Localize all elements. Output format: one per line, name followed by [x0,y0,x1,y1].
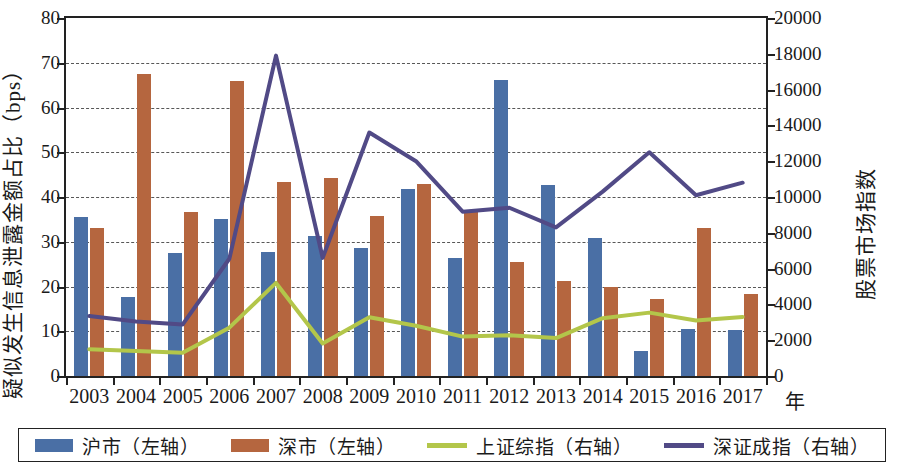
x-axis-tick-label: 2014 [583,385,623,408]
legend-label: 深证成指（右轴） [713,432,869,459]
x-axis-tick-label: 2016 [676,385,716,408]
right-axis-tick-label: 8000 [774,222,812,241]
left-axis-tick-label: 60 [41,97,60,116]
left-axis-tick-mark [57,331,66,333]
right-axis-tick-mark [766,340,775,342]
left-axis-title: 疑似发生信息泄露金额占比（bps） [0,69,26,399]
left-axis-tick-mark [57,376,66,378]
x-axis-tick-label: 2015 [629,385,669,408]
x-axis-tick-mark [766,376,768,385]
x-axis-tick-label: 2007 [256,385,296,408]
right-axis-tick-labels: 0200040006000800010000120001400016000180… [774,16,844,378]
right-axis-tick-mark [766,18,775,20]
left-axis-tick-mark [57,108,66,110]
x-axis-tick-mark [579,376,581,385]
x-axis-unit-label: 年 [785,386,805,415]
x-axis-tick-mark [206,376,208,385]
x-axis-tick-label: 2017 [723,385,763,408]
right-axis-tick-label: 16000 [774,79,822,98]
legend-item-2[interactable]: 深市（左轴） [231,432,395,459]
line-series-group [66,18,766,376]
x-axis-tick-mark [719,376,721,385]
right-axis-tick-mark [766,161,775,163]
legend-label: 上证综指（右轴） [476,432,632,459]
x-axis-tick-mark [626,376,628,385]
right-axis-tick-mark [766,90,775,92]
right-axis-tick-mark [766,304,775,306]
x-axis-tick-mark [159,376,161,385]
legend-bar-swatch-icon [35,439,73,452]
right-axis-tick-mark [766,125,775,127]
right-axis-tick-label: 0 [774,366,784,385]
x-axis-tick-label: 2013 [536,385,576,408]
right-axis-tick-mark [766,54,775,56]
x-axis-tick-mark [66,376,68,385]
x-axis-tick-label: 2012 [489,385,529,408]
right-axis-tick-label: 4000 [774,294,812,313]
legend-item-3[interactable]: 上证综指（右轴） [427,432,632,459]
right-axis-title: 股票市场指数 [849,134,879,334]
x-axis-tick-label: 2004 [116,385,156,408]
legend-item-4[interactable]: 深证成指（右轴） [664,432,869,459]
x-axis-tick-labels: 2003200420052006200720082009201020112012… [64,385,768,415]
left-axis-tick-mark [57,152,66,154]
right-axis-tick-label: 10000 [774,187,822,206]
left-axis-tick-label: 10 [41,321,60,340]
x-axis-tick-mark [439,376,441,385]
legend-line-swatch-icon [427,443,467,448]
chart-legend: 沪市（左轴）深市（左轴）上证综指（右轴）深证成指（右轴） [18,428,886,462]
x-axis-tick-label: 2003 [69,385,109,408]
right-axis-tick-label: 20000 [774,8,822,27]
right-axis-tick-label: 14000 [774,115,822,134]
chart-figure: 01020304050607080 0200040006000800010000… [0,0,904,468]
left-axis-tick-mark [57,18,66,20]
left-axis-tick-label: 30 [41,231,60,250]
legend-bar-swatch-icon [231,439,269,452]
legend-label: 沪市（左轴） [82,432,199,459]
x-axis-tick-mark [393,376,395,385]
x-axis-tick-label: 2010 [396,385,436,408]
right-axis-tick-mark [766,197,775,199]
x-axis-tick-mark [533,376,535,385]
left-axis-tick-label: 70 [41,52,60,71]
plot-area [64,16,768,378]
legend-line-swatch-icon [664,443,704,448]
right-axis-tick-mark [766,233,775,235]
x-axis-tick-mark [113,376,115,385]
x-axis-tick-label: 2011 [443,385,482,408]
x-axis-tick-label: 2005 [163,385,203,408]
left-axis-tick-mark [57,287,66,289]
x-axis-tick-mark [673,376,675,385]
x-axis-tick-label: 2009 [349,385,389,408]
right-axis-tick-label: 2000 [774,330,812,349]
left-axis-tick-label: 20 [41,276,60,295]
left-axis-tick-mark [57,63,66,65]
right-axis-tick-label: 18000 [774,43,822,62]
x-axis-tick-mark [486,376,488,385]
left-axis-tick-label: 0 [51,366,61,385]
x-axis-tick-mark [253,376,255,385]
x-axis-tick-mark [346,376,348,385]
left-axis-tick-label: 80 [41,8,60,27]
legend-label: 深市（左轴） [278,432,395,459]
left-axis-tick-mark [57,242,66,244]
left-axis-tick-label: 40 [41,187,60,206]
legend-item-1[interactable]: 沪市（左轴） [35,432,199,459]
x-axis-tick-label: 2008 [303,385,343,408]
left-axis-tick-mark [57,197,66,199]
x-axis-tick-mark [299,376,301,385]
line-szse-component [89,56,742,325]
right-axis-tick-label: 6000 [774,258,812,277]
x-axis-tick-label: 2006 [209,385,249,408]
right-axis-tick-label: 12000 [774,151,822,170]
left-axis-tick-label: 50 [41,142,60,161]
right-axis-tick-mark [766,269,775,271]
